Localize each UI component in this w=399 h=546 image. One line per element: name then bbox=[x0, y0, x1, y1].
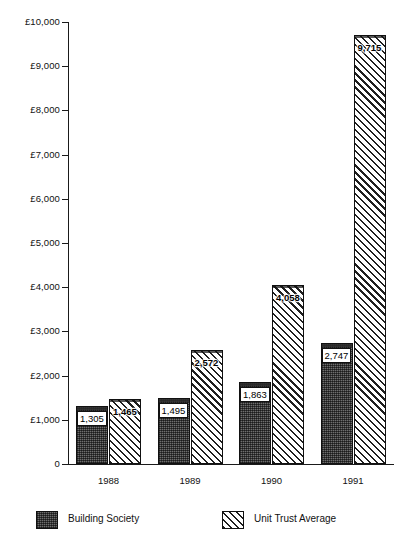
bar-value-label: 1,465 bbox=[110, 404, 140, 419]
y-axis-tick-label: £9,000 bbox=[6, 60, 60, 71]
legend-label: Building Society bbox=[68, 513, 139, 524]
bar-value-label: 1,305 bbox=[77, 411, 107, 426]
plot-area: 1,3051,4651,4952,5721,8634,0582,7479,715 bbox=[68, 22, 394, 464]
x-axis-label-1990: 1990 bbox=[242, 475, 302, 486]
bar-value-label: 9,715 bbox=[355, 40, 385, 55]
x-axis-label-1989: 1989 bbox=[160, 475, 220, 486]
y-axis-tick-label: £8,000 bbox=[6, 104, 60, 115]
x-axis-line bbox=[68, 464, 394, 465]
y-axis-tick-label: £6,000 bbox=[6, 193, 60, 204]
y-axis-tick-label: 0 bbox=[6, 458, 60, 469]
bar-1990-series1 bbox=[272, 285, 304, 464]
y-axis-tick-label: £4,000 bbox=[6, 281, 60, 292]
x-axis-label-1991: 1991 bbox=[323, 475, 383, 486]
y-axis-tick-label: £2,000 bbox=[6, 370, 60, 381]
y-axis-tick-label: £1,000 bbox=[6, 414, 60, 425]
legend-swatch-icon bbox=[222, 511, 244, 529]
bar-value-label: 2,572 bbox=[192, 355, 222, 370]
bar-value-label: 1,863 bbox=[240, 387, 270, 402]
chart-legend: Building SocietyUnit Trust Average bbox=[0, 508, 399, 542]
y-axis-tick-label: £7,000 bbox=[6, 149, 60, 160]
bar-chart: 0£1,000£2,000£3,000£4,000£5,000£6,000£7,… bbox=[0, 0, 399, 546]
legend-label: Unit Trust Average bbox=[254, 513, 336, 524]
bar-value-label: 4,058 bbox=[273, 290, 303, 305]
bar-value-label: 2,747 bbox=[322, 348, 352, 363]
bar-value-label: 1,495 bbox=[159, 403, 189, 418]
legend-swatch-icon bbox=[36, 511, 58, 529]
x-axis-label-1988: 1988 bbox=[79, 475, 139, 486]
bar-1991-series1 bbox=[354, 35, 386, 464]
y-axis-tick-label: £10,000 bbox=[6, 16, 60, 27]
y-axis-tick-label: £5,000 bbox=[6, 237, 60, 248]
y-axis-tick-label: £3,000 bbox=[6, 325, 60, 336]
